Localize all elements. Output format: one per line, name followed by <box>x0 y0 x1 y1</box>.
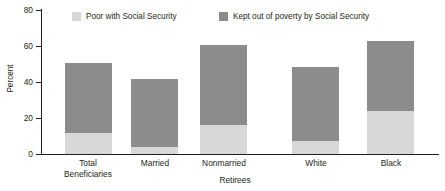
y-axis-line <box>41 9 42 155</box>
x-tick-label-nonmarried: Nonmarried <box>177 158 271 169</box>
y-tick-label-20: 20 <box>24 114 33 122</box>
plot-area: 80 60 40 20 0 Percent <box>0 0 445 191</box>
y-axis-title: Percent <box>6 51 15 107</box>
x-tick-label-line1: Total <box>79 158 97 168</box>
x-tick-label-line1: Nonmarried <box>202 158 246 168</box>
y-tick-label-60: 60 <box>24 42 33 50</box>
bar-total-beneficiaries <box>65 63 112 154</box>
y-tick-mark-40 <box>36 82 41 83</box>
bar-segment-kept-out-of-poverty <box>200 45 247 125</box>
x-axis-line <box>41 154 439 155</box>
bar-segment-kept-out-of-poverty <box>131 79 178 147</box>
stacked-bar-chart: Poor with Social Security Kept out of po… <box>0 0 445 191</box>
x-tick-label-line1: Married <box>141 158 169 168</box>
bar-white <box>292 67 339 154</box>
bar-segment-kept-out-of-poverty <box>65 63 112 133</box>
bar-married <box>131 79 178 154</box>
bar-segment-poor-with-social-security <box>292 141 339 154</box>
bar-segment-poor-with-social-security <box>65 133 112 154</box>
bar-black <box>367 41 414 154</box>
x-axis-title: Retirees <box>190 176 280 185</box>
y-tick-mark-20 <box>36 118 41 119</box>
y-tick-label-0: 0 <box>28 150 33 158</box>
bar-segment-kept-out-of-poverty <box>292 67 339 142</box>
y-tick-label-40: 40 <box>24 78 33 86</box>
y-tick-mark-60 <box>36 46 41 47</box>
bar-nonmarried <box>200 45 247 154</box>
y-tick-mark-0 <box>36 154 41 155</box>
y-tick-label-80: 80 <box>24 6 33 14</box>
bar-segment-kept-out-of-poverty <box>367 41 414 111</box>
bar-segment-poor-with-social-security <box>367 111 414 154</box>
y-tick-mark-80 <box>36 10 41 11</box>
x-tick-label-line1: White <box>305 158 326 168</box>
bar-segment-poor-with-social-security <box>131 147 178 154</box>
x-tick-label-black: Black <box>344 158 438 169</box>
x-tick-label-line1: Black <box>381 158 401 168</box>
bar-segment-poor-with-social-security <box>200 125 247 154</box>
x-tick-label-line2: Beneficiaries <box>41 169 135 180</box>
